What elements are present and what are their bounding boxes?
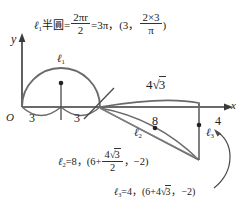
formula-l2-radicand: 3 xyxy=(114,148,120,160)
measurement-top-radicand: 3 xyxy=(159,76,167,92)
curve-top-4root3 xyxy=(100,100,199,107)
formula-l2-comma2: ， xyxy=(124,156,134,167)
formula-l1-comma1: ， xyxy=(108,19,119,31)
formula-l3-value: −2 xyxy=(181,186,192,197)
formula-l3: ℓ3=4，(6+4√3，−2) xyxy=(114,187,195,198)
x-axis xyxy=(22,104,233,111)
measurement-right-3: 3 xyxy=(74,112,80,124)
formula-l1-paren-close: ) xyxy=(163,19,167,31)
formula-l2: ℓ2=8，(6+4√32，−2) xyxy=(58,149,148,174)
origin-label: O xyxy=(6,112,14,123)
formula-l2-paren-open: (6+ xyxy=(87,156,102,167)
measurement-vertical-4: 4 xyxy=(215,115,221,127)
formula-l1-fraction2: 2×3π xyxy=(140,11,161,37)
formula-l1-eq2: =3π xyxy=(91,19,108,31)
formula-l3-eq: =4 xyxy=(121,186,132,197)
curve-label-l2-sub: 2 xyxy=(139,132,142,139)
formula-l2-eq: =8 xyxy=(66,156,77,167)
curve-label-l3-sub: 3 xyxy=(211,132,214,139)
leader-arrow-head xyxy=(214,129,221,137)
formula-l3-paren-open: (6+4 xyxy=(142,186,161,197)
l3-dot xyxy=(197,123,202,128)
formula-l2-frac-num: 4√3 xyxy=(102,149,122,162)
formula-l2-comma1: ， xyxy=(77,156,87,167)
x-axis-label: x xyxy=(231,100,236,111)
formula-l1-eq1: = xyxy=(64,19,70,31)
radical-icon: √3 xyxy=(110,149,121,161)
l1-center-dot xyxy=(59,81,64,86)
formula-l1-frac-den: 2 xyxy=(71,24,90,36)
formula-l1-semicircle: ℓ1半圓=2πr2=3π，(3，2×3π) xyxy=(34,11,166,37)
formula-l3-comma1: ， xyxy=(132,186,142,197)
curve-label-l2: ℓ2 xyxy=(134,127,142,140)
formula-l3-comma2: ， xyxy=(171,186,181,197)
formula-l3-paren-close: ) xyxy=(192,186,195,197)
measurement-top-4root3: 4√3 xyxy=(146,78,166,91)
formula-l1-fraction: 2πr2 xyxy=(71,11,90,37)
formula-l1-word: 半圓 xyxy=(42,19,64,31)
junction-slash xyxy=(84,88,114,119)
curve-label-l3: ℓ3 xyxy=(206,127,214,140)
measurement-left-3: 3 xyxy=(29,112,35,124)
y-axis-label: y xyxy=(11,33,16,45)
formula-l1-frac-num: 2πr xyxy=(71,11,90,24)
formula-l2-value: −2 xyxy=(134,156,145,167)
measurement-diagonal-8: 8 xyxy=(152,115,158,127)
curve-label-l1: ℓ1 xyxy=(57,53,65,66)
formula-l1-frac2-den: π xyxy=(140,24,161,36)
formula-l2-fraction: 4√32 xyxy=(102,149,122,174)
formula-l2-frac-den: 2 xyxy=(102,162,122,174)
formula-l1-frac2-num: 2×3 xyxy=(140,11,161,24)
leader-arrow-l3 xyxy=(214,131,230,188)
radical-icon: √3 xyxy=(161,187,172,197)
curve-label-l1-sub: 1 xyxy=(62,58,65,65)
formula-l2-paren-close: ) xyxy=(145,156,149,167)
radical-icon: √3 xyxy=(153,78,167,91)
arc-left-bump xyxy=(22,107,61,116)
formula-l1-comma2: ， xyxy=(128,19,139,31)
formula-l1-paren-open: (3 xyxy=(119,19,128,31)
